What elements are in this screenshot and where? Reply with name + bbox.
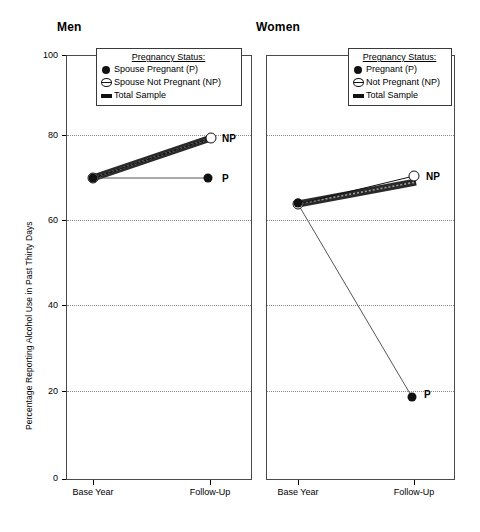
legend-item-women-pregnant: Pregnant (P) (353, 63, 446, 76)
y-tick-label-20: 20 (32, 386, 58, 396)
data-label-women-np: NP (426, 171, 440, 182)
y-tick-label-60: 60 (32, 215, 58, 225)
x-tick-label-men-follow: Follow-Up (190, 487, 231, 497)
gridline-women-60 (267, 220, 454, 221)
x-tick-mark-women-base (298, 480, 299, 485)
x-tick-mark-women-follow (414, 480, 415, 485)
y-tick-label-100: 100 (32, 50, 58, 60)
legend-title-men: Pregnancy Status: (101, 52, 236, 62)
x-tick-label-women-base: Base Year (277, 487, 318, 497)
plot-area-men (66, 55, 252, 480)
y-tick-label-80: 80 (32, 130, 58, 140)
x-tick-mark-men-base (93, 480, 94, 485)
panel-title-women: Women (256, 20, 300, 34)
y-tick-label-40: 40 (32, 300, 58, 310)
legend-title-women: Pregnancy Status: (353, 52, 446, 62)
legend-label-men-total: Total Sample (114, 91, 166, 100)
legend-label-women-pregnant: Pregnant (P) (366, 65, 417, 74)
plot-area-women (266, 55, 455, 480)
filled-circle-icon (101, 64, 113, 75)
open-circle-icon (101, 77, 113, 88)
data-point-men-follow-p (204, 174, 213, 183)
chart-figure: Men Women Percentage Reporting Alcohol U… (0, 0, 480, 532)
x-tick-label-women-follow: Follow-Up (394, 487, 435, 497)
legend-item-men-total: Total Sample (101, 89, 236, 102)
panel-title-men: Men (57, 20, 82, 34)
y-axis-title: Percentage Reporting Alcohol Use in Past… (24, 221, 34, 430)
gridline-men-40 (67, 305, 251, 306)
legend-label-men-not-pregnant: Spouse Not Pregnant (NP) (114, 78, 221, 87)
legend-label-men-pregnant: Spouse Pregnant (P) (114, 65, 198, 74)
thick-bar-icon (353, 90, 365, 101)
data-point-women-follow-p (408, 393, 417, 402)
y-tick-label-0: 0 (32, 473, 58, 483)
open-circle-icon (353, 77, 365, 88)
data-point-women-follow-np (409, 171, 420, 182)
data-point-women-base-p (294, 199, 303, 208)
gridline-women-80 (267, 135, 454, 136)
data-label-women-p: P (424, 389, 431, 400)
gridline-men-60 (67, 220, 251, 221)
data-label-men-p: P (222, 173, 229, 184)
gridline-women-40 (267, 305, 454, 306)
legend-label-women-not-pregnant: Not Pregnant (NP) (366, 78, 440, 87)
data-label-men-np: NP (222, 133, 236, 144)
x-tick-label-men-base: Base Year (72, 487, 113, 497)
legend-item-women-total: Total Sample (353, 89, 446, 102)
legend-item-men-not-pregnant: Spouse Not Pregnant (NP) (101, 76, 236, 89)
data-point-men-follow-np (206, 133, 217, 144)
x-tick-mark-men-follow (210, 480, 211, 485)
thick-bar-icon (101, 90, 113, 101)
legend-item-men-pregnant: Spouse Pregnant (P) (101, 63, 236, 76)
gridline-men-20 (67, 391, 251, 392)
filled-circle-icon (353, 64, 365, 75)
legend-women: Pregnancy Status: Pregnant (P) Not Pregn… (348, 48, 452, 106)
legend-men: Pregnancy Status: Spouse Pregnant (P) Sp… (96, 48, 242, 106)
data-point-men-base-p (89, 174, 98, 183)
legend-label-women-total: Total Sample (366, 91, 418, 100)
legend-item-women-not-pregnant: Not Pregnant (NP) (353, 76, 446, 89)
